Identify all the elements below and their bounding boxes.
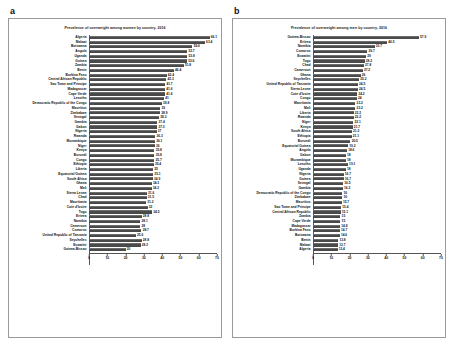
- bar-value-label: 13.4: [339, 247, 345, 252]
- axis-tick: [386, 254, 387, 256]
- bar: [89, 92, 165, 95]
- bar: [313, 92, 357, 95]
- bar: [313, 225, 340, 228]
- axis-tick-label: 40: [384, 256, 388, 260]
- chart-a-rows: Algeria66.1Malawi63.4Botswana56.6Angola5…: [13, 35, 217, 252]
- bar: [89, 45, 192, 48]
- axis-tick-label: 30: [366, 256, 370, 260]
- panel-a-letter: a: [10, 6, 15, 16]
- axis-tick-label: 10: [329, 256, 333, 260]
- bar-category-label: Guinea-Bissau: [13, 247, 89, 252]
- bar: [313, 144, 348, 147]
- bar: [313, 55, 366, 58]
- bar: [313, 149, 347, 152]
- bar: [313, 248, 338, 251]
- bar: [313, 243, 338, 246]
- bar: [89, 125, 157, 128]
- axis-tick-label: 50: [403, 256, 407, 260]
- bar: [89, 248, 126, 251]
- figure-root: a Prevalence of overweight among women b…: [0, 0, 454, 358]
- chart-b-rows: Guinea-Bissau57.9Eritrea40.5Namibia33.7C…: [237, 35, 441, 252]
- axis-tick: [89, 254, 90, 256]
- bar: [313, 206, 341, 209]
- bar: [313, 45, 375, 48]
- bar-area: 20: [89, 247, 217, 252]
- bar: [89, 36, 210, 39]
- bar: [313, 154, 346, 157]
- bar: [313, 215, 340, 218]
- bar: [89, 74, 167, 77]
- bar: [313, 78, 359, 81]
- bar: [89, 173, 153, 176]
- chart-a-title: Prevalence of overweight among women by …: [13, 26, 217, 31]
- bar: [313, 121, 353, 124]
- bar: [89, 88, 165, 91]
- bar: [89, 121, 157, 124]
- bar: [313, 36, 419, 39]
- bar: [89, 229, 141, 232]
- axis-tick-label: 10: [105, 256, 109, 260]
- axis-tick: [198, 254, 199, 256]
- bar: [89, 192, 147, 195]
- bar: [313, 125, 353, 128]
- bar: [89, 154, 154, 157]
- bar-value-label: 20: [127, 247, 131, 252]
- bar: [313, 163, 348, 166]
- axis-tick-label: 30: [142, 256, 146, 260]
- panel-a: a Prevalence of overweight among women b…: [8, 18, 222, 352]
- bar: [89, 41, 205, 44]
- axis-tick: [180, 254, 181, 256]
- bar: [89, 130, 157, 133]
- panel-b: b Prevalence of overweight among men by …: [232, 18, 446, 352]
- bar: [89, 239, 142, 242]
- bar: [313, 210, 341, 213]
- bar: [313, 239, 338, 242]
- bar: [89, 140, 155, 143]
- chart-a-plot: Algeria66.1Malawi63.4Botswana56.6Angola5…: [13, 35, 217, 265]
- axis-tick-label: 60: [197, 256, 201, 260]
- bar: [89, 210, 152, 213]
- bar: [313, 234, 340, 237]
- bar: [89, 102, 162, 105]
- bar: [89, 50, 187, 53]
- bar: [89, 215, 142, 218]
- bar: [313, 130, 352, 133]
- bar: [89, 55, 187, 58]
- bar: [313, 140, 350, 143]
- bar: [313, 116, 354, 119]
- bar: [313, 168, 346, 171]
- bar: [89, 111, 160, 114]
- axis-tick: [162, 254, 163, 256]
- bar: [89, 206, 148, 209]
- bar: [313, 187, 343, 190]
- bar: [89, 177, 153, 180]
- bar: [89, 168, 153, 171]
- axis-tick: [404, 254, 405, 256]
- bar: [89, 196, 147, 199]
- chart-a-xaxis: 010203040506070: [89, 253, 217, 265]
- axis-tick: [107, 254, 108, 256]
- bar: [313, 229, 340, 232]
- bar: [313, 177, 344, 180]
- bar: [313, 69, 363, 72]
- axis-tick: [422, 254, 423, 256]
- bar: [313, 111, 354, 114]
- bar: [89, 144, 155, 147]
- panel-b-letter: b: [234, 6, 240, 16]
- bar-category-label: Algeria: [237, 247, 313, 252]
- bar: [89, 78, 166, 81]
- axis-tick-label: 60: [421, 256, 425, 260]
- axis-tick: [125, 254, 126, 256]
- chart-b-xaxis: 010203040506070: [313, 253, 441, 265]
- bar-area: 13.4: [313, 247, 441, 252]
- axis-tick-label: 40: [160, 256, 164, 260]
- bar: [89, 243, 141, 246]
- bar: [313, 102, 355, 105]
- bar: [89, 159, 154, 162]
- bar: [89, 83, 165, 86]
- bar: [89, 201, 146, 204]
- bar: [89, 135, 155, 138]
- axis-tick: [217, 254, 218, 256]
- axis-tick-label: 70: [439, 256, 443, 260]
- bar: [313, 41, 387, 44]
